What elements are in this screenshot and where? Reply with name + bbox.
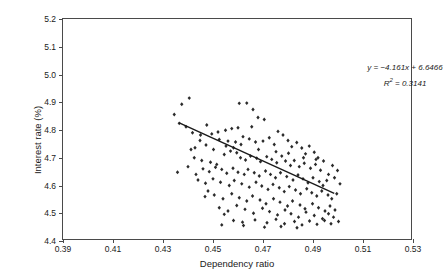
y-axis-tick-label: 4.8: [44, 126, 56, 135]
y-axis-tick-label: 5.2: [44, 15, 56, 24]
r-squared-value: = 0.3141: [393, 79, 427, 88]
x-axis-tick-label: 0.41: [105, 245, 122, 254]
y-axis-tick-label: 5.1: [44, 43, 56, 52]
x-axis-tick: [363, 239, 364, 243]
x-axis-tick-label: 0.47: [255, 245, 272, 254]
y-axis-title: Interest rate (%): [33, 106, 43, 174]
regression-line: [179, 123, 334, 193]
x-axis-tick-label: 0.53: [405, 245, 422, 254]
x-axis-tick: [313, 239, 314, 243]
x-axis-tick: [163, 239, 164, 243]
x-axis-tick: [263, 239, 264, 243]
x-axis-tick-label: 0.39: [55, 245, 72, 254]
plot-area: 4.44.54.64.74.84.95.05.15.2 0.390.410.43…: [62, 18, 412, 240]
y-axis-tick-label: 4.7: [44, 154, 56, 163]
y-axis-tick-label: 4.9: [44, 98, 56, 107]
x-axis-tick: [413, 239, 414, 243]
x-axis-tick-label: 0.51: [355, 245, 372, 254]
regression-equation-text: y = −4.161x + 6.6466: [359, 62, 448, 74]
regression-annotation: y = −4.161x + 6.6466 R2 = 0.3141: [359, 62, 448, 90]
x-axis-tick: [213, 239, 214, 243]
x-axis-tick-label: 0.43: [155, 245, 172, 254]
y-axis-tick-label: 5.0: [44, 70, 56, 79]
trendline-layer: [63, 19, 411, 239]
y-axis-tick-label: 4.6: [44, 181, 56, 190]
x-axis-tick-label: 0.49: [305, 245, 322, 254]
x-axis-tick: [63, 239, 64, 243]
x-axis-tick-label: 0.45: [205, 245, 222, 254]
trendline: [63, 19, 411, 239]
x-axis-title: Dependency ratio: [62, 259, 412, 269]
y-axis-tick-label: 4.5: [44, 209, 56, 218]
x-axis-tick: [113, 239, 114, 243]
r-squared-text: R2 = 0.3141: [359, 74, 448, 90]
